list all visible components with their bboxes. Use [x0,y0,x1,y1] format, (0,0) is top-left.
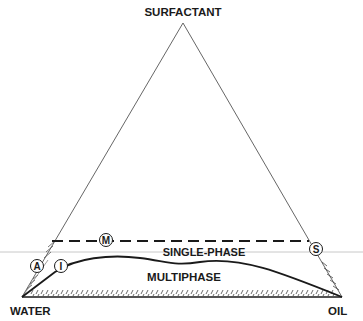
marker-a-label: A [33,261,40,272]
marker-m-label: M [102,235,110,246]
marker-m: M [100,234,113,247]
vertex-label-water: WATER [10,305,51,317]
marker-i: I [55,260,68,273]
marker-a: A [31,260,44,273]
ternary-diagram: A I M S SURFACTANT WATER OIL SINGLE-PHAS… [0,0,363,321]
vertex-label-surfactant: SURFACTANT [144,6,221,18]
vertex-label-oil: OIL [328,305,347,317]
bottom-hatching [30,290,335,296]
region-label-multiphase: MULTIPHASE [147,271,221,283]
marker-s: S [310,243,323,256]
marker-s-label: S [313,244,320,255]
region-label-single-phase: SINGLE-PHASE [163,246,246,258]
marker-i-label: I [60,261,63,272]
